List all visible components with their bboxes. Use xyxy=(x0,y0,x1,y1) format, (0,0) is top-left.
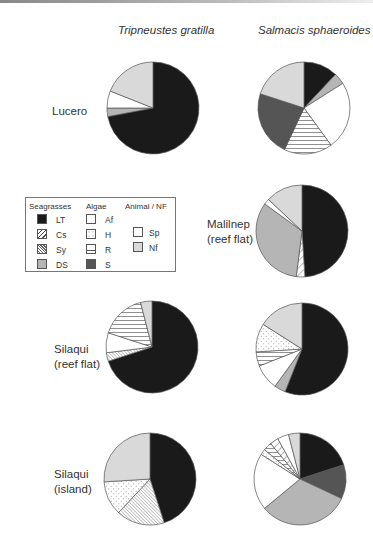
legend-swatch-cs xyxy=(37,229,47,239)
pie-malilnep-reef-flat--salmacis xyxy=(256,185,348,277)
legend-swatch-h xyxy=(86,229,96,239)
legend-label-af: Af xyxy=(105,215,113,225)
legend-header-algae: Algae xyxy=(86,202,106,211)
legend-label-h: H xyxy=(105,230,111,240)
legend-label-s: S xyxy=(105,260,111,270)
legend-swatch-s xyxy=(86,259,96,269)
pie-silaqui-island--tripneustes xyxy=(104,433,196,525)
legend-label-r: R xyxy=(105,245,111,255)
legend-swatch-lt xyxy=(37,214,47,224)
pie-silaqui-reef-flat--salmacis xyxy=(256,303,348,395)
pie-lucero-salmacis xyxy=(258,62,350,154)
legend-label-ds: DS xyxy=(56,260,68,270)
legend-label-sy: Sy xyxy=(56,245,66,255)
legend-swatch-sp xyxy=(133,227,143,237)
legend-label-nf: Nf xyxy=(149,243,158,253)
pie-charts xyxy=(0,0,373,545)
legend-swatch-sy xyxy=(37,244,47,254)
pie-silaqui-reef-flat--tripneustes xyxy=(106,301,198,393)
pie-lucero-tripneustes xyxy=(107,62,199,154)
legend-label-lt: LT xyxy=(56,215,65,225)
legend-swatch-nf xyxy=(133,242,143,252)
legend: Seagrasses Algae Animal / NF LT Cs Sy DS… xyxy=(25,197,176,272)
legend-swatch-af xyxy=(86,214,96,224)
legend-swatch-ds xyxy=(37,259,47,269)
legend-header-seagrasses: Seagrasses xyxy=(29,202,71,211)
legend-header-animal-nf: Animal / NF xyxy=(125,202,167,211)
legend-label-cs: Cs xyxy=(56,230,66,240)
legend-swatch-r xyxy=(86,244,96,254)
pie-slice-lt xyxy=(302,185,348,277)
pie-slice-nf xyxy=(104,433,150,482)
pie-silaqui-island--salmacis xyxy=(254,433,346,525)
legend-label-sp: Sp xyxy=(149,228,159,238)
